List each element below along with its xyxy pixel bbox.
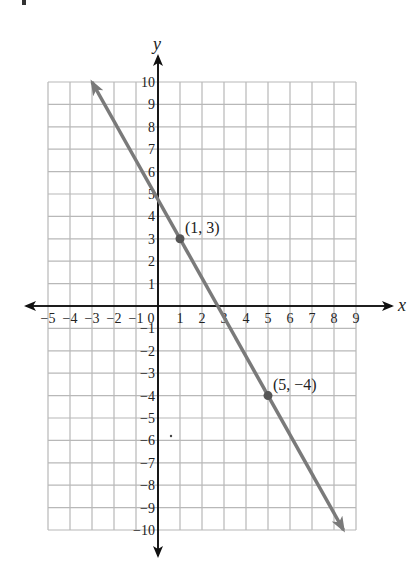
- y-tick-label: −10: [133, 523, 155, 538]
- y-tick-label: −8: [140, 478, 155, 493]
- y-tick-label: 3: [148, 232, 155, 247]
- point-label: (1, 3): [185, 219, 220, 237]
- y-axis-label: y: [151, 34, 161, 54]
- coordinate-plane: −5−4−3−2−10123456789−10−9−8−7−6−5−4−3−2−…: [0, 0, 418, 569]
- x-tick-label: 4: [243, 311, 250, 326]
- y-tick-label: 1: [148, 277, 155, 292]
- x-tick-label: −4: [63, 311, 78, 326]
- y-tick-label: 7: [148, 142, 155, 157]
- y-tick-label: 9: [148, 97, 155, 112]
- x-tick-label: −5: [41, 311, 56, 326]
- axes: [26, 56, 392, 556]
- y-tick-label: −5: [140, 411, 155, 426]
- y-tick-label: −1: [140, 321, 155, 336]
- stray-dot: [170, 435, 172, 437]
- y-tick-label: −7: [140, 456, 155, 471]
- y-tick-label: −6: [140, 433, 155, 448]
- y-tick-label: 2: [148, 254, 155, 269]
- x-tick-label: 5: [265, 311, 272, 326]
- y-tick-label: 10: [141, 75, 155, 90]
- y-tick-label: 8: [148, 120, 155, 135]
- x-tick-label: −2: [107, 311, 122, 326]
- data-point: [176, 234, 185, 243]
- y-tick-label: 6: [148, 165, 155, 180]
- y-tick-label: 4: [148, 209, 155, 224]
- x-tick-label: 6: [287, 311, 294, 326]
- y-tick-label: −9: [140, 501, 155, 516]
- x-axis-label: x: [397, 295, 406, 315]
- x-tick-label: 8: [331, 311, 338, 326]
- y-tick-label: −3: [140, 366, 155, 381]
- x-tick-label: 9: [353, 311, 360, 326]
- x-tick-label: 1: [177, 311, 184, 326]
- x-tick-label: −3: [85, 311, 100, 326]
- y-tick-label: −4: [140, 389, 155, 404]
- y-tick-label: −2: [140, 344, 155, 359]
- point-label: (5, −4): [273, 376, 317, 394]
- data-point: [264, 391, 273, 400]
- x-tick-label: 2: [199, 311, 206, 326]
- x-tick-label: 7: [309, 311, 316, 326]
